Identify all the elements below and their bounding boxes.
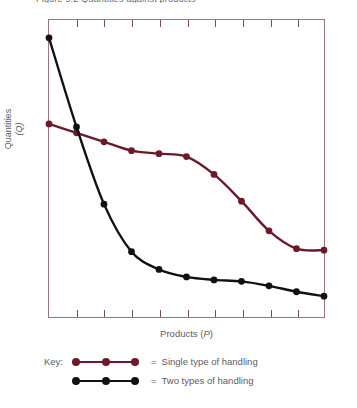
x-axis-tick-top: [77, 20, 78, 27]
series-line-1: [49, 124, 324, 251]
y-axis-label-text: Quantities: [3, 109, 13, 150]
x-axis-tick-top: [243, 20, 244, 27]
x-axis-tick-top: [104, 20, 105, 27]
x-axis-tick-top: [271, 20, 272, 27]
data-point: [211, 171, 218, 178]
legend-title: Key:: [44, 356, 69, 367]
data-point: [156, 150, 163, 157]
data-point: [293, 288, 300, 295]
y-axis-label: Quantities (Q): [3, 69, 25, 189]
cut-off-caption: Figure 9.2 Quantities against products: [36, 0, 316, 3]
data-point: [128, 248, 135, 255]
data-point: [101, 201, 108, 208]
x-axis-tick-top: [298, 20, 299, 27]
figure-chart: Figure 9.2 Quantities against products Q…: [0, 0, 357, 408]
legend-text-two: =Two types of handling: [151, 375, 253, 386]
x-axis-tick-top: [132, 20, 133, 27]
x-axis-tick-top: [160, 20, 161, 27]
legend-swatch-single: [69, 356, 151, 368]
data-point: [183, 153, 190, 160]
x-axis-label: Products (P): [48, 328, 325, 339]
x-axis-label-close: ): [210, 328, 213, 339]
data-point: [266, 282, 273, 289]
x-axis-tick-bottom: [160, 310, 161, 317]
data-point: [46, 121, 53, 128]
data-point: [238, 278, 245, 285]
legend-label-single: Single type of handling: [162, 356, 258, 367]
x-axis-tick-bottom: [104, 310, 105, 317]
x-axis-tick-bottom: [215, 310, 216, 317]
legend-equals: =: [151, 356, 162, 367]
legend: Key: =Single type of handling =Two types…: [44, 352, 344, 390]
x-axis-label-text: Products (: [160, 328, 203, 339]
data-point: [293, 245, 300, 252]
x-axis-tick-bottom: [188, 310, 189, 317]
x-axis-tick-top: [188, 20, 189, 27]
y-axis-label-symbol: (Q): [14, 69, 25, 189]
x-axis-tick-bottom: [298, 310, 299, 317]
legend-swatch-two: [69, 375, 151, 387]
series-line-2: [49, 38, 324, 296]
legend-label-two: Two types of handling: [162, 375, 254, 386]
curves-layer: [49, 20, 324, 317]
data-point: [321, 247, 328, 254]
legend-text-single: =Single type of handling: [151, 356, 258, 367]
data-point: [183, 274, 190, 281]
series-group: [46, 34, 328, 299]
data-point: [238, 198, 245, 205]
x-axis-tick-bottom: [271, 310, 272, 317]
x-axis-tick-top: [215, 20, 216, 27]
x-axis-tick-bottom: [77, 310, 78, 317]
data-point: [46, 34, 53, 41]
legend-row: Key: =Single type of handling: [44, 352, 344, 371]
x-axis-tick-bottom: [243, 310, 244, 317]
data-point: [73, 124, 80, 131]
legend-equals: =: [151, 375, 162, 386]
data-point: [156, 266, 163, 273]
data-point: [211, 277, 218, 284]
data-point: [321, 293, 328, 300]
plot-area: [48, 19, 325, 318]
data-point: [266, 227, 273, 234]
legend-row: =Two types of handling: [44, 371, 344, 390]
data-point: [128, 147, 135, 154]
x-axis-tick-bottom: [132, 310, 133, 317]
data-point: [101, 138, 108, 145]
